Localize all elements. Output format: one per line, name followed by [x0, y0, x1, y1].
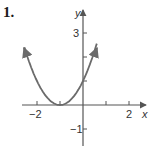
parabola-graph: y 3 −1 −2 2 x [0, 0, 153, 157]
parabola-curve [24, 44, 96, 105]
x-tick-label-2: 2 [126, 108, 132, 120]
y-tick-label-neg1: −1 [70, 123, 83, 135]
y-tick-label-3: 3 [73, 27, 79, 39]
y-axis-label: y [74, 7, 82, 19]
x-axis-label: x [141, 108, 148, 120]
x-tick-label-neg2: −2 [29, 108, 42, 120]
